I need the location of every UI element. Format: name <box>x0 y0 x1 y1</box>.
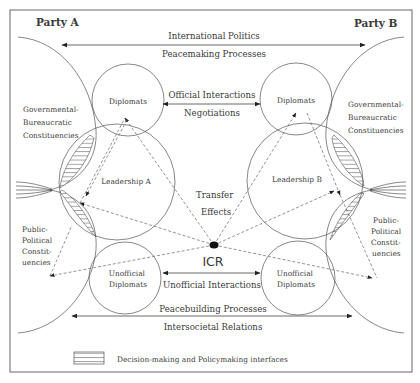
intersocietal-relations-label: Intersocietal Relations <box>164 322 263 332</box>
gov-bureaucratic-a-label: Governmental- Bureaucratic Constituencie… <box>23 105 81 140</box>
unofficial-a-label: Unofficial Diplomats <box>109 269 148 289</box>
party-b-boundary <box>326 37 406 333</box>
leadership-a-label: Leadership A <box>101 177 151 186</box>
party-b-label: Party B <box>354 17 398 29</box>
peacebuilding-processes-label: Peacebuilding Processes <box>159 304 266 314</box>
diplomats-b-label: Diplomats <box>277 96 315 105</box>
interface-gov-a <box>60 135 94 188</box>
negotiations-label: Negotiations <box>184 108 240 118</box>
gov-bureaucratic-b-label: Governmental- Bureaucratic Constituencie… <box>348 100 406 135</box>
international-politics-label: International Politics <box>168 31 259 41</box>
transfer-effects-label: Transfer Effects <box>196 190 236 217</box>
legend-hatch-swatch <box>74 352 104 364</box>
peacemaking-processes-label: Peacemaking Processes <box>162 49 266 59</box>
icr-label: ICR <box>202 254 223 269</box>
party-a-label: Party A <box>36 16 80 28</box>
official-interactions-label: Official Interactions <box>169 90 256 100</box>
public-political-a-label: Public- Political Constit- uencies <box>22 225 54 267</box>
interface-public-a <box>60 190 96 237</box>
leadership-b-label: Leadership B <box>272 175 322 184</box>
legend-label: Decision-making and Policymaking interfa… <box>117 355 288 364</box>
public-political-b-label: Public- Political Constit- uencies <box>371 216 403 258</box>
unofficial-b-circle <box>261 241 335 315</box>
icr-model-diagram: Party A Party B International Politics P… <box>0 0 420 383</box>
unofficial-a-circle <box>89 242 161 314</box>
unofficial-interactions-label: Unofficial Interactions <box>163 280 261 290</box>
legend: Decision-making and Policymaking interfa… <box>74 352 288 364</box>
diplomats-a-label: Diplomats <box>109 97 147 106</box>
unofficial-b-label: Unofficial Diplomats <box>277 269 316 289</box>
party-a-boundary <box>16 37 96 333</box>
icr-node <box>210 241 219 248</box>
